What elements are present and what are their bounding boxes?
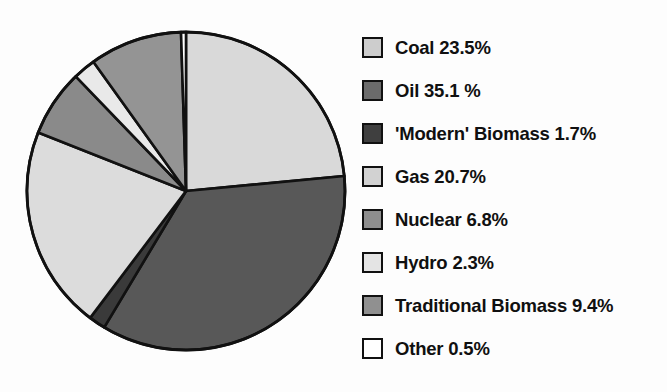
legend-item[interactable]: Gas 20.7% [362,155,662,198]
legend-label-traditional-biomass: Traditional Biomass 9.4% [395,295,613,317]
pie-slice-coal[interactable] [186,32,344,191]
legend-label-modern-biomass: 'Modern' Biomass 1.7% [395,123,596,145]
legend-item[interactable]: Oil 35.1 % [362,69,662,112]
legend-label-oil: Oil 35.1 % [395,80,480,102]
chart-legend: Coal 23.5% Oil 35.1 % 'Modern' Biomass 1… [362,26,662,370]
legend-swatch-gas [362,166,383,187]
legend-swatch-oil [362,80,383,101]
legend-swatch-hydro [362,252,383,273]
legend-swatch-traditional-biomass [362,295,383,316]
pie-chart-svg [20,24,360,364]
legend-item[interactable]: 'Modern' Biomass 1.7% [362,112,662,155]
legend-label-other: Other 0.5% [395,338,490,360]
legend-swatch-modern-biomass [362,123,383,144]
legend-swatch-nuclear [362,209,383,230]
legend-item[interactable]: Coal 23.5% [362,26,662,69]
legend-item[interactable]: Hydro 2.3% [362,241,662,284]
chart-page: Coal 23.5% Oil 35.1 % 'Modern' Biomass 1… [0,0,667,392]
legend-label-hydro: Hydro 2.3% [395,252,494,274]
legend-item[interactable]: Other 0.5% [362,327,662,370]
legend-item[interactable]: Traditional Biomass 9.4% [362,284,662,327]
legend-item[interactable]: Nuclear 6.8% [362,198,662,241]
legend-swatch-coal [362,37,383,58]
pie-chart-area [20,24,360,364]
legend-label-gas: Gas 20.7% [395,166,486,188]
legend-label-coal: Coal 23.5% [395,37,491,59]
legend-swatch-other [362,338,383,359]
legend-label-nuclear: Nuclear 6.8% [395,209,508,231]
